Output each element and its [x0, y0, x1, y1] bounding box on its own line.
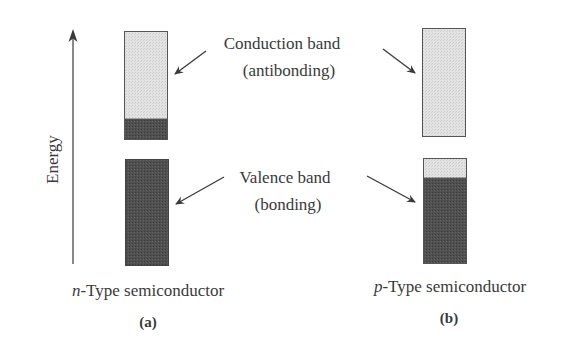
panel-p-type — [423, 29, 467, 264]
caption-a: n-Type semiconductor (a) — [72, 281, 225, 331]
valence-label-line2: (bonding) — [254, 195, 321, 214]
n-conduction-donor-electrons — [125, 119, 168, 140]
n-valence-band — [126, 160, 169, 266]
valence-band-label: Valence band (bonding) — [239, 168, 331, 214]
arrow-to-n-conduction-icon — [175, 51, 206, 74]
energy-axis-label: Energy — [43, 135, 62, 184]
conduction-label-line1: Conduction band — [224, 34, 341, 53]
caption-b-label: (b) — [440, 310, 458, 327]
conduction-label-line2: (antibonding) — [243, 61, 336, 80]
valence-label-line1: Valence band — [239, 168, 331, 187]
p-valence-band — [424, 159, 467, 264]
arrow-to-p-conduction-icon — [383, 49, 415, 73]
p-conduction-band — [423, 29, 466, 137]
panel-n-type — [125, 32, 169, 266]
energy-axis: Energy — [43, 29, 78, 264]
arrow-to-p-valence-icon — [367, 176, 415, 202]
p-valence-holes — [424, 159, 467, 178]
arrow-to-n-valence-icon — [176, 177, 224, 204]
n-conduction-empty — [125, 32, 168, 119]
p-valence-filled — [424, 178, 467, 264]
p-type-title: p-Type semiconductor — [373, 277, 527, 296]
caption-a-label: (a) — [139, 314, 157, 331]
band-diagram: Energy Conduction band (antibonding) Val… — [0, 0, 582, 358]
n-conduction-band — [125, 32, 168, 140]
caption-b: p-Type semiconductor (b) — [373, 277, 527, 327]
p-conduction-empty — [423, 29, 466, 137]
n-valence-filled — [126, 160, 169, 266]
n-type-title: n-Type semiconductor — [72, 281, 225, 300]
conduction-band-label: Conduction band (antibonding) — [224, 34, 341, 80]
